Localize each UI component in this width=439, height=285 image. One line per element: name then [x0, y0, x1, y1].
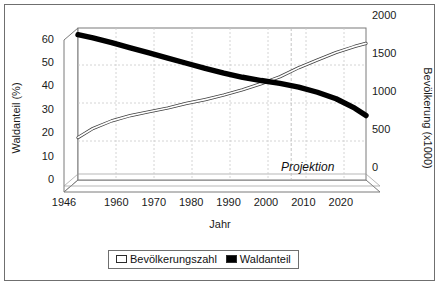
x-axis-tick-label: 1980: [179, 196, 203, 208]
x-axis-tick-label: 2020: [329, 196, 353, 208]
legend-item-waldanteil: Waldanteil: [226, 253, 291, 265]
legend-label-waldanteil: Waldanteil: [240, 253, 291, 265]
chart-legend: Bevölkerungszahl Waldanteil: [108, 250, 299, 269]
x-axis-tick-label: 1960: [104, 196, 128, 208]
x-axis-tick-label: 1990: [216, 196, 240, 208]
x-axis-tick-label: 1946: [52, 196, 76, 208]
plot-area: [0, 0, 439, 285]
x-axis-tick-label: 2000: [254, 196, 278, 208]
x-axis-tick-label: 2010: [291, 196, 315, 208]
legend-label-bevoelkerungszahl: Bevölkerungszahl: [130, 253, 217, 265]
projektion-annotation: Projektion: [281, 160, 334, 174]
open-square-icon: [116, 255, 127, 263]
chart-figure: Waldanteil (%) Bevölkerung (x1000) Jahr …: [0, 0, 439, 285]
filled-square-icon: [226, 255, 237, 263]
legend-item-bevoelkerungszahl: Bevölkerungszahl: [116, 253, 217, 265]
x-axis-tick-label: 1970: [142, 196, 166, 208]
